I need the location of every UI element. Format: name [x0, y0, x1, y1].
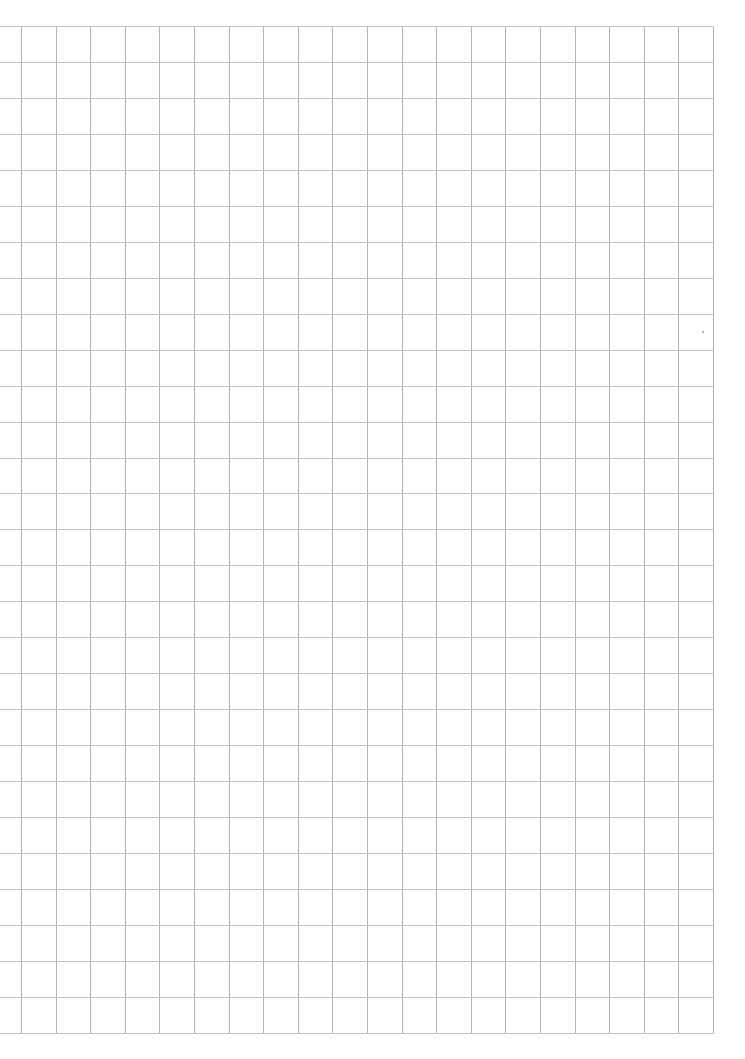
grid-horizontal-line [0, 278, 714, 279]
grid-horizontal-line [0, 458, 714, 459]
grid-horizontal-line [0, 925, 714, 926]
grid-lines [0, 0, 745, 1059]
grid-horizontal-line [0, 601, 714, 602]
grid-horizontal-line [0, 26, 714, 27]
grid-horizontal-line [0, 781, 714, 782]
grid-horizontal-line [0, 242, 714, 243]
grid-horizontal-line [0, 745, 714, 746]
grid-horizontal-line [0, 386, 714, 387]
grid-horizontal-line [0, 673, 714, 674]
grid-horizontal-line [0, 493, 714, 494]
grid-horizontal-line [0, 62, 714, 63]
grid-horizontal-line [0, 1033, 714, 1034]
grid-horizontal-line [0, 314, 714, 315]
grid-horizontal-line [0, 997, 714, 998]
grid-horizontal-line [0, 961, 714, 962]
grid-horizontal-line [0, 98, 714, 99]
grid-horizontal-line [0, 170, 714, 171]
grid-horizontal-line [0, 565, 714, 566]
grid-horizontal-line [0, 529, 714, 530]
grid-horizontal-line [0, 853, 714, 854]
grid-horizontal-line [0, 709, 714, 710]
grid-horizontal-line [0, 637, 714, 638]
grid-horizontal-line [0, 889, 714, 890]
grid-paper-sheet [0, 0, 745, 1059]
grid-horizontal-line [0, 206, 714, 207]
grid-horizontal-line [0, 817, 714, 818]
scan-speck [702, 331, 704, 333]
grid-horizontal-line [0, 350, 714, 351]
grid-horizontal-line [0, 422, 714, 423]
grid-horizontal-line [0, 134, 714, 135]
